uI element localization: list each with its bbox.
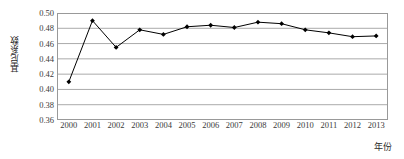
x-tick-label: 2013 [368,121,385,130]
x-tick-label: 2000 [60,121,77,130]
x-axis-title: 年份 [374,140,392,153]
x-tick-label: 2002 [108,121,125,130]
gini-coefficient-line-chart: 基尼系数 0.360.380.400.420.440.460.480.50 20… [0,0,404,159]
x-tick-label: 2007 [226,121,243,130]
x-tick-label: 2001 [84,121,101,130]
x-tick-label: 2009 [273,121,290,130]
x-tick-label: 2006 [202,121,219,130]
x-tick-label: 2005 [179,121,196,130]
x-tick-label: 2008 [249,121,266,130]
x-tick-label: 2012 [344,121,361,130]
x-tick-label: 2010 [297,121,314,130]
x-tick-label: 2003 [131,121,148,130]
x-axis-tick-labels: 2000200120022003200420052006200720082009… [0,0,404,159]
x-tick-label: 2004 [155,121,172,130]
x-tick-label: 2011 [321,121,338,130]
